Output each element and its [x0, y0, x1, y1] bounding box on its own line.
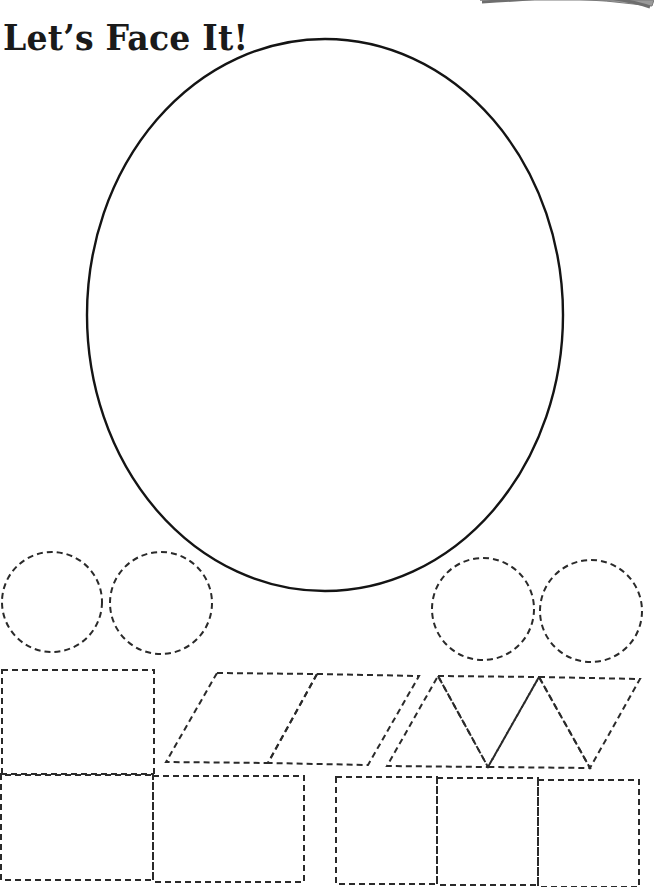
shapes-canvas — [0, 0, 654, 887]
cutout-triangle-3[interactable] — [488, 677, 590, 768]
cutout-triangle-2[interactable] — [438, 676, 539, 767]
cutout-triangle-1[interactable] — [387, 676, 488, 767]
cutout-circle-3[interactable] — [432, 558, 534, 660]
cutout-rectangle-top-left[interactable] — [2, 670, 154, 775]
cutout-square-3[interactable] — [538, 780, 639, 887]
cutout-circle-2[interactable] — [110, 552, 212, 654]
face-oval-outline — [87, 39, 563, 591]
cutout-rectangle-bottom-left[interactable] — [1, 774, 153, 880]
cutout-rectangle-bottom-middle[interactable] — [153, 776, 304, 882]
cutout-parallelogram-1[interactable] — [166, 673, 317, 763]
cutout-triangle-4[interactable] — [539, 677, 640, 768]
cutout-square-2[interactable] — [437, 778, 538, 885]
cutout-circle-1[interactable] — [2, 552, 102, 652]
worksheet-page: Let’s Face It! — [0, 0, 654, 887]
cutout-square-1[interactable] — [336, 777, 437, 884]
cutout-circle-4[interactable] — [540, 560, 642, 662]
